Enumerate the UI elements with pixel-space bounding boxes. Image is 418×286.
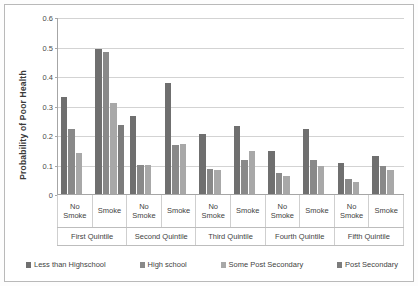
bar [241, 160, 248, 194]
bar-group [58, 18, 93, 194]
x-axis-category-label: Smoke [300, 195, 335, 227]
y-axis-tick-label: 0.4 [43, 73, 53, 82]
legend-label: Less than Highschool [34, 260, 106, 269]
x-axis-category-label: NoSmoke [57, 195, 93, 227]
x-axis-category-label-line: No [208, 202, 218, 211]
y-axis-tick-label: 0.3 [43, 102, 53, 111]
legend-label: Some Post Secondary [229, 260, 304, 269]
x-axis-category-labels: NoSmokeSmokeNoSmokeSmokeNoSmokeSmokeNoSm… [57, 195, 404, 228]
x-axis-category-label-line: Smoke [63, 211, 86, 220]
x-axis-category-label-line: Smoke [98, 206, 121, 215]
bar [249, 151, 256, 194]
bar [276, 173, 283, 194]
legend: Less than HighschoolHigh schoolSome Post… [26, 260, 398, 269]
x-axis-category-label-line: Smoke [167, 206, 190, 215]
bar [199, 134, 206, 194]
bar [310, 160, 317, 194]
bar [61, 97, 68, 194]
x-axis-category-label-line: No [139, 202, 149, 211]
x-axis-category-label: NoSmoke [127, 195, 162, 227]
bar [118, 125, 125, 194]
legend-swatch [221, 262, 226, 268]
bar-group [300, 18, 335, 194]
bar-group [93, 18, 128, 194]
bar-groups [58, 18, 404, 194]
bar-group [369, 18, 404, 194]
x-axis-group-label: First Quintile [57, 228, 127, 245]
bar [95, 49, 102, 194]
x-axis-category-label: NoSmoke [196, 195, 231, 227]
bar [76, 153, 83, 194]
figure: Probability of Poor Health 00.10.20.30.4… [0, 0, 418, 286]
bar [268, 151, 275, 194]
bar [283, 176, 290, 194]
x-axis-group-label: Third Quintile [196, 228, 265, 245]
bar [318, 166, 325, 194]
x-axis-group-labels: First QuintileSecond QuintileThird Quint… [57, 228, 404, 246]
y-axis-tick-label: 0.1 [43, 161, 53, 170]
legend-item: Less than Highschool [26, 260, 106, 269]
x-axis-category-label: NoSmoke [266, 195, 301, 227]
bar [68, 129, 75, 194]
x-axis-category-label-line: Smoke [305, 206, 328, 215]
x-axis-category-label-line: Smoke [340, 211, 363, 220]
y-axis-tick-label: 0 [49, 191, 53, 200]
x-axis-category-label: Smoke [369, 195, 404, 227]
y-axis-tick-label: 0.5 [43, 43, 53, 52]
y-axis-tick-label: 0.2 [43, 132, 53, 141]
x-axis-category-label-line: Smoke [271, 211, 294, 220]
bar-group [266, 18, 301, 194]
x-axis-category-label: Smoke [231, 195, 266, 227]
bar-group [127, 18, 162, 194]
y-axis-tick-label: 0.6 [43, 14, 53, 23]
bar [130, 116, 137, 194]
bar-group [335, 18, 370, 194]
bar [372, 156, 379, 194]
legend-swatch [140, 262, 145, 268]
legend-item: High school [140, 260, 187, 269]
x-axis-category-label-line: Smoke [374, 206, 397, 215]
legend-item: Post Secondary [337, 260, 398, 269]
bar [137, 165, 144, 195]
x-axis-category-label-line: Smoke [132, 211, 155, 220]
bar [103, 52, 110, 194]
bar [214, 170, 221, 194]
x-axis-group-label: Second Quintile [127, 228, 196, 245]
x-axis-category-label-line: Smoke [236, 206, 259, 215]
x-axis-category-label-line: No [278, 202, 288, 211]
x-axis-category-label-line: No [70, 202, 80, 211]
bar-group [231, 18, 266, 194]
y-axis-title: Probability of Poor Health [18, 40, 28, 210]
bar [345, 179, 352, 194]
x-axis-group-label: Fifth Quintile [335, 228, 404, 245]
bar [172, 145, 179, 194]
x-axis-category-label-line: Smoke [202, 211, 225, 220]
plot-area: 00.10.20.30.40.50.6 [57, 18, 404, 195]
bar [338, 163, 345, 194]
bar [387, 170, 394, 194]
x-axis-category-label: NoSmoke [335, 195, 370, 227]
x-axis-category-label-line: No [347, 202, 357, 211]
x-axis-category-label: Smoke [93, 195, 128, 227]
bar [165, 83, 172, 194]
bar [145, 165, 152, 195]
bar [207, 169, 214, 194]
bar [234, 126, 241, 194]
bar-group [196, 18, 231, 194]
legend-label: High school [148, 260, 187, 269]
legend-item: Some Post Secondary [221, 260, 304, 269]
bar [180, 144, 187, 194]
bar [110, 103, 117, 194]
legend-swatch [337, 262, 342, 268]
x-axis-category-label: Smoke [162, 195, 197, 227]
bar [303, 129, 310, 194]
x-axis-group-label: Fourth Quintile [266, 228, 335, 245]
bar [353, 182, 360, 194]
bar-group [162, 18, 197, 194]
legend-swatch [26, 262, 31, 268]
legend-label: Post Secondary [345, 260, 398, 269]
bar [380, 166, 387, 194]
